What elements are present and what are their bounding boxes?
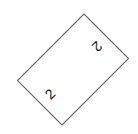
rotated-card: 2 2 bbox=[17, 13, 129, 125]
card-number-bottom: 2 bbox=[40, 83, 60, 103]
card-number-top: 2 bbox=[87, 36, 107, 56]
